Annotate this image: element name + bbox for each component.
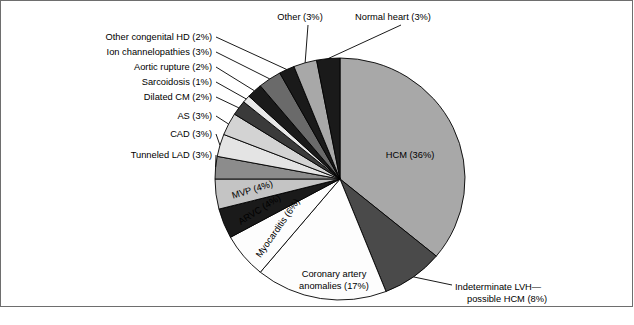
label-coronary-artery-anomalies: Coronary artery [302,269,367,279]
label-indeterminate-lvh: possible HCM (8%) [467,294,547,304]
leader-line [216,82,246,99]
label-other: Other (3%) [277,12,322,22]
label-as: AS (3%) [177,111,212,121]
label-tunneled-lad: Tunneled LAD (3%) [131,150,212,160]
label-hcm: HCM (36%) [386,150,435,160]
label-aortic-rupture: Aortic rupture (2%) [134,62,212,72]
pie-slices-group [215,58,465,300]
leader-line [216,97,239,108]
label-cad: CAD (3%) [170,129,212,139]
figure-container: HCM (36%)Coronary arteryanomalies (17%)M… [0,0,634,325]
leader-line [216,67,254,91]
leader-line [328,25,401,59]
label-indeterminate-lvh: Indeterminate LVH— [455,282,542,292]
pie-chart: HCM (36%)Coronary arteryanomalies (17%)M… [0,0,634,325]
footer-bar [0,310,634,325]
leader-line [413,277,452,285]
label-other-congenital-hd: Other congenital HD (2%) [106,32,212,42]
label-dilated-cm: Dilated CM (2%) [144,92,212,102]
leader-line [216,116,229,124]
leader-line [216,52,270,79]
leader-line [216,134,220,145]
leader-line [216,37,287,70]
label-ion-channelopathies: Ion channelopathies (3%) [107,47,212,57]
label-normal-heart: Normal heart (3%) [355,12,431,22]
label-sarcoidosis: Sarcoidosis (1%) [142,77,212,87]
leader-line [305,25,308,63]
label-coronary-artery-anomalies: anomalies (17%) [299,281,369,291]
